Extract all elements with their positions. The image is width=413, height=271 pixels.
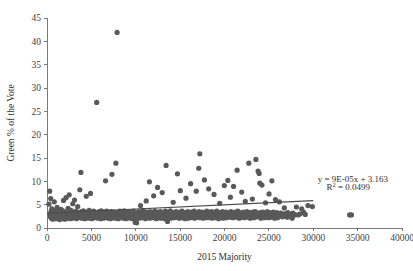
y-tick-label: 30 <box>32 83 42 93</box>
scatter-point <box>269 178 274 183</box>
y-axis-title: Green % of the Vote <box>6 84 16 161</box>
scatter-point <box>282 205 287 210</box>
y-tick-label: 40 <box>32 37 42 47</box>
chart-canvas: 051015202530354045 050001000015000200002… <box>0 0 413 271</box>
scatter-point <box>231 184 236 189</box>
scatter-point <box>206 186 211 191</box>
scatter-point <box>183 196 188 201</box>
scatter-point <box>266 191 271 196</box>
scatter-point <box>164 163 169 168</box>
scatter-point <box>202 177 207 182</box>
x-tick-label: 20000 <box>213 233 237 243</box>
scatter-chart: 051015202530354045 050001000015000200002… <box>0 0 413 271</box>
scatter-point <box>235 168 240 173</box>
scatter-point <box>259 182 264 187</box>
x-tick-label: 30000 <box>301 233 325 243</box>
x-tick-label: 35000 <box>346 233 370 243</box>
y-tick-label: 15 <box>32 153 42 163</box>
scatter-point <box>46 202 51 207</box>
y-tick-label: 5 <box>36 200 41 210</box>
scatter-point <box>147 179 152 184</box>
scatter-point <box>239 189 244 194</box>
x-axis-title: 2015 Majority <box>197 252 252 262</box>
scatter-point <box>151 193 156 198</box>
y-tick-label: 25 <box>32 107 42 117</box>
scatter-point <box>178 188 183 193</box>
x-tick-label: 25000 <box>257 233 281 243</box>
scatter-point <box>160 190 165 195</box>
scatter-point <box>294 204 299 209</box>
scatter-point <box>103 178 108 183</box>
scatter-point <box>138 203 143 208</box>
scatter-point <box>113 161 118 166</box>
scatter-point <box>94 100 99 105</box>
scatter-point <box>155 185 160 190</box>
y-tick-label: 0 <box>36 223 41 233</box>
scatter-point <box>349 212 354 217</box>
scatter-point <box>134 220 139 225</box>
scatter-point <box>228 195 233 200</box>
scatter-point <box>171 200 176 205</box>
scatter-point <box>225 178 230 183</box>
x-tick-label: 15000 <box>168 233 192 243</box>
scatter-point <box>84 194 89 199</box>
x-tick-label: 10000 <box>124 233 148 243</box>
scatter-point <box>72 197 77 202</box>
scatter-point <box>303 212 308 217</box>
scatter-point <box>305 203 310 208</box>
scatter-point <box>52 199 57 204</box>
y-tick-label: 45 <box>32 13 42 23</box>
scatter-point <box>222 183 227 188</box>
x-tick-label: 5000 <box>82 233 101 243</box>
scatter-point <box>47 189 52 194</box>
scatter-point <box>246 161 251 166</box>
scatter-point <box>243 199 248 204</box>
scatter-point <box>188 181 193 186</box>
scatter-point <box>75 204 80 209</box>
scatter-point <box>194 189 199 194</box>
x-tick-label: 0 <box>45 233 50 243</box>
scatter-point <box>88 191 93 196</box>
scatter-point <box>310 204 315 209</box>
scatter-point <box>109 172 114 177</box>
scatter-point <box>196 166 201 171</box>
y-tick-label: 10 <box>32 177 42 187</box>
scatter-point <box>253 157 258 162</box>
y-tick-label: 35 <box>32 60 42 70</box>
scatter-point <box>144 198 149 203</box>
scatter-point <box>77 187 82 192</box>
scatter-point <box>67 192 72 197</box>
scatter-point <box>78 170 83 175</box>
scatter-point <box>250 196 255 201</box>
scatter-point <box>115 30 120 35</box>
scatter-point <box>257 171 262 176</box>
plot-background <box>0 0 413 271</box>
x-tick-label: 40000 <box>390 233 413 243</box>
scatter-point <box>211 192 216 197</box>
scatter-point <box>175 171 180 176</box>
y-tick-label: 20 <box>32 130 42 140</box>
scatter-point <box>197 151 202 156</box>
